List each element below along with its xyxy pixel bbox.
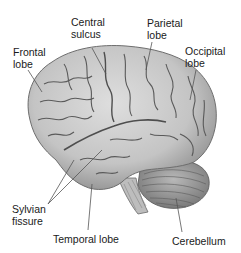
label-sylvian-fissure: Sylvian fissure <box>12 203 46 227</box>
label-frontal-lobe: Frontal lobe <box>13 46 46 70</box>
label-cerebellum: Cerebellum <box>172 235 226 247</box>
label-parietal-lobe: Parietal lobe <box>147 17 183 41</box>
label-temporal-lobe: Temporal lobe <box>53 233 119 245</box>
label-occipital-lobe: Occipital lobe <box>185 45 225 69</box>
leader-temporal-lobe <box>88 184 92 230</box>
label-central-sulcus: Central sulcus <box>71 16 105 40</box>
